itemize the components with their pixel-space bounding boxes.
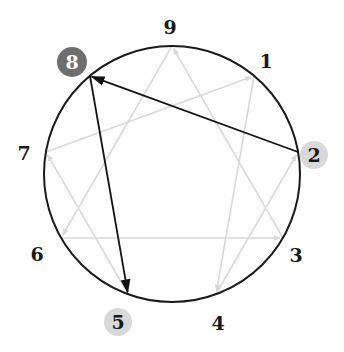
arrow-1-to-4 [217,76,254,291]
point-label-2: 2 [300,141,328,169]
point-label-5: 5 [104,308,132,336]
point-label-6: 6 [30,243,43,265]
point-number: 2 [307,144,320,166]
gray-arrows [46,46,296,294]
point-number: 8 [65,51,78,73]
point-number: 1 [259,50,272,72]
enneagram-diagram: 912345678 [0,0,344,352]
point-number: 7 [17,142,30,164]
point-number: 6 [30,243,43,265]
point-label-9: 9 [163,16,176,38]
enneagram-circle [44,46,300,302]
point-label-1: 1 [259,50,272,72]
point-number: 4 [211,312,224,334]
point-number: 3 [289,244,302,266]
enneagram-svg: 912345678 [0,0,344,352]
point-label-8: 8 [57,47,87,77]
point-number: 5 [111,311,124,333]
point-label-4: 4 [211,312,224,334]
arrow-3-to-9 [174,49,283,238]
point-label-7: 7 [17,142,30,164]
point-labels: 912345678 [17,16,328,336]
point-number: 9 [163,16,176,38]
point-label-3: 3 [289,244,302,266]
